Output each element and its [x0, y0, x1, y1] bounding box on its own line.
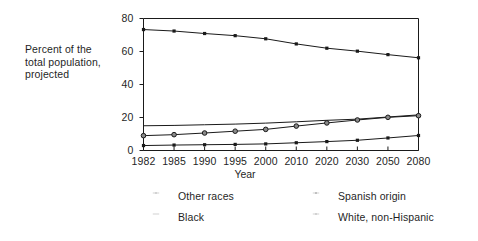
x-axis-title: Year [234, 168, 255, 180]
series-marker-3 [295, 141, 298, 144]
series-marker-0 [417, 56, 420, 59]
series-marker-3 [264, 142, 267, 145]
legend-item-label: Other races [178, 190, 234, 202]
legend-swatch-dot-icon [300, 213, 332, 215]
series-line-3 [144, 135, 419, 145]
y-tick-label: 20 [108, 111, 134, 123]
legend-swatch-dot-icon [140, 192, 172, 194]
series-marker-0 [295, 42, 298, 45]
series-marker-2 [416, 113, 421, 118]
y-tick-label: 80 [108, 12, 134, 24]
series-marker-0 [203, 32, 206, 35]
series-line-0 [144, 30, 419, 58]
series-marker-2 [325, 121, 330, 126]
series-marker-2 [202, 131, 207, 136]
y-tick-label: 60 [108, 45, 134, 57]
plot-canvas [0, 0, 478, 241]
x-axis-title-wrap: Year [0, 168, 478, 180]
legend-item-label: White, non-Hispanic [338, 211, 434, 223]
legend-swatch-none-icon [140, 213, 172, 215]
series-line-1 [144, 115, 419, 126]
series-marker-3 [325, 140, 328, 143]
series-marker-0 [234, 34, 237, 37]
series-marker-2 [233, 129, 238, 134]
series-marker-0 [386, 53, 389, 56]
series-marker-0 [142, 28, 145, 31]
series-marker-3 [234, 143, 237, 146]
chart-figure: Percent of the total population, project… [0, 0, 478, 241]
series-marker-0 [172, 29, 175, 32]
series-marker-2 [386, 115, 391, 120]
series-marker-3 [386, 136, 389, 139]
series-marker-3 [142, 144, 145, 147]
series-marker-3 [356, 139, 359, 142]
legend-item-label: Spanish origin [338, 190, 406, 202]
legend-swatch-circle-icon [300, 192, 332, 194]
legend-item-label: Black [178, 211, 204, 223]
series-marker-3 [203, 143, 206, 146]
series-marker-3 [172, 143, 175, 146]
series-marker-2 [294, 124, 299, 129]
series-marker-2 [355, 118, 360, 123]
series-marker-2 [263, 127, 268, 132]
series-marker-2 [172, 132, 177, 137]
series-marker-0 [325, 47, 328, 50]
y-tick-label: 40 [108, 78, 134, 90]
series-marker-3 [417, 134, 420, 137]
series-marker-0 [264, 37, 267, 40]
series-marker-2 [141, 133, 146, 138]
series-marker-0 [356, 50, 359, 53]
x-tick-label: 2080 [399, 155, 439, 167]
